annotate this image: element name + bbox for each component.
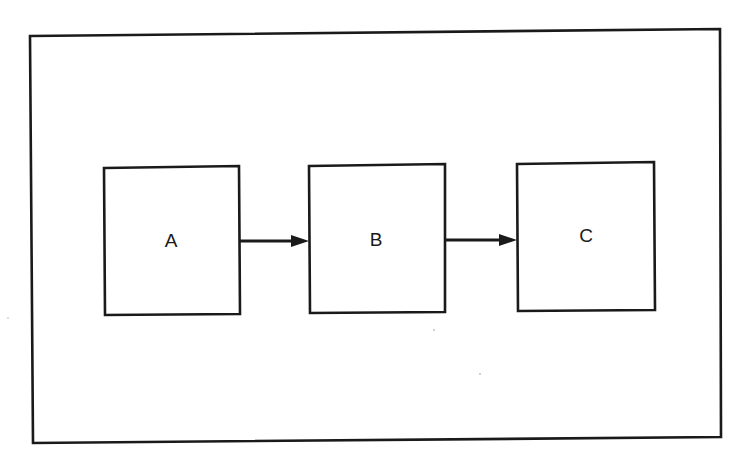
arrow-head-icon bbox=[291, 235, 309, 247]
edge-b-to-c bbox=[445, 234, 517, 246]
node-b-label: B bbox=[370, 229, 383, 250]
arrow-head-icon bbox=[499, 234, 517, 246]
node-b[interactable]: B bbox=[309, 164, 445, 313]
node-c[interactable]: C bbox=[517, 162, 655, 311]
edge-a-to-b bbox=[240, 235, 309, 247]
scan-speck bbox=[7, 317, 9, 319]
diagram-canvas: A B C bbox=[0, 0, 750, 460]
node-a-label: A bbox=[165, 230, 178, 251]
scan-speck bbox=[479, 373, 481, 375]
node-c-label: C bbox=[579, 225, 593, 246]
node-a[interactable]: A bbox=[104, 166, 240, 315]
scan-speck bbox=[433, 329, 435, 331]
